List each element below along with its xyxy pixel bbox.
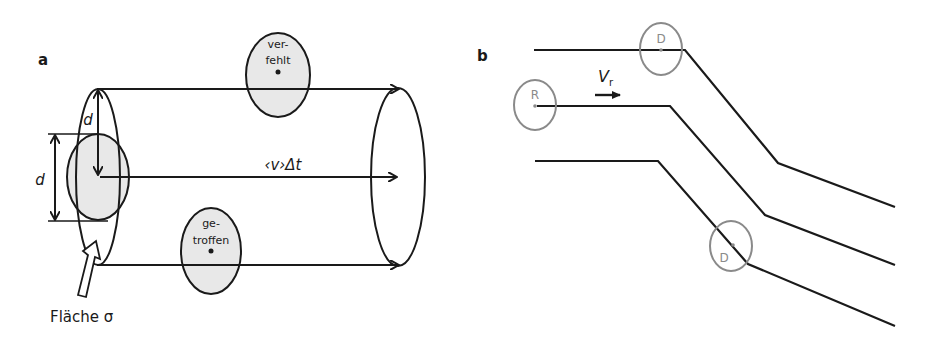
trajectory-reference [537,106,895,265]
area-pointer-arrow [78,241,100,297]
missed-label-line2: fehlt [266,54,292,67]
trajectory-top [534,50,895,207]
panel-b: b D R D Vr [477,23,895,326]
circle-reference-label: R [531,88,539,102]
panel-a-label: a [38,51,48,69]
panel-b-label: b [477,47,488,65]
radius-d-label: d [83,111,93,129]
hit-molecule: ge- troffen [181,208,241,294]
molecule-center-dot [276,70,281,75]
area-label: Fläche σ [50,308,114,326]
circle-top-label: D [656,32,665,46]
hit-label-line2: troffen [193,234,230,247]
diameter-d-label: d [35,171,45,189]
diagram-canvas: a ver- fehlt ge- troffen ‹v›Δt d [0,0,930,349]
missed-molecule: ver- fehlt [246,33,310,117]
molecule-center-dot [209,249,214,254]
circle-bottom-label: D [719,251,728,265]
velocity-subscript: r [609,77,614,88]
hit-label-line1: ge- [202,217,220,230]
distance-label: ‹v›Δt [264,156,302,174]
velocity-label: Vr [598,67,614,88]
missed-label-line1: ver- [267,38,288,51]
panel-a: a ver- fehlt ge- troffen ‹v›Δt d [35,33,425,326]
